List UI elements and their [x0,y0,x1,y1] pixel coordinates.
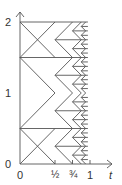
zigzag-diagram [0,0,122,185]
x-label-three-quarters: ¾ [69,170,77,180]
y-label-2: 2 [5,17,11,28]
x-label-t: t [109,170,112,181]
x-label-half: ½ [51,170,59,180]
x-label-0: 0 [17,170,23,181]
x-label-1: 1 [87,170,93,181]
y-label-1: 1 [5,88,11,99]
y-label-0: 0 [5,159,11,170]
